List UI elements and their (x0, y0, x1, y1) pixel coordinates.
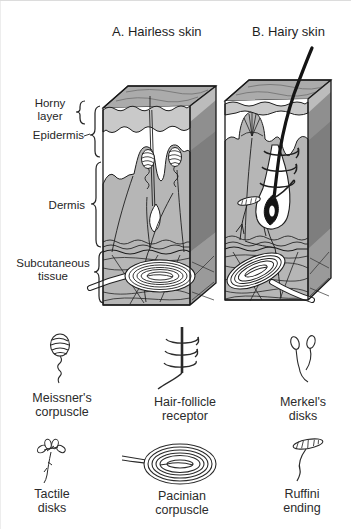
epidermis-pointer-line (84, 134, 90, 136)
dermis-brace (91, 162, 101, 247)
tactile-disks-icon (34, 438, 70, 486)
ruffini-ending-label: Ruffini ending (260, 487, 344, 515)
tactile-disks-label: Tactile disks (12, 487, 92, 515)
meissner-corpuscle-icon (44, 332, 76, 386)
skin-block-diagram (0, 0, 351, 320)
merkel-disks-icon (284, 334, 324, 384)
horny-layer-brace (76, 101, 85, 124)
pacinian-corpuscle-a (125, 260, 195, 292)
meissner-corpuscle-label: Meissner's corpuscle (17, 391, 107, 419)
hairless-skin-block (90, 86, 216, 305)
hairy-skin-block (222, 48, 331, 301)
layer-braces (76, 101, 104, 303)
pacinian-corpuscle-icon (120, 440, 220, 488)
pacinian-corpuscle-label: Pacinian corpuscle (137, 489, 227, 517)
hair-follicle-receptor-icon (152, 325, 212, 393)
merkel-disks-label: Merkel's disks (262, 395, 344, 423)
ruffini-ending-icon (282, 436, 330, 484)
epidermis-brace (90, 106, 100, 157)
skin-receptors-figure: A. Hairless skin B. Hairy skin Horny lay… (0, 0, 351, 529)
hair-follicle-receptor-label: Hair-follicle receptor (140, 395, 230, 423)
